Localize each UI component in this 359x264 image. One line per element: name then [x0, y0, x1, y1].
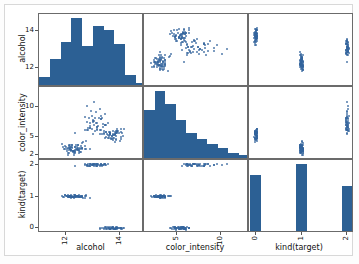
data-point — [226, 163, 228, 165]
y-tick-mark — [35, 227, 38, 228]
x-axis-label-kind-target: kind(target) — [245, 243, 353, 252]
data-point — [103, 133, 105, 135]
data-point — [158, 58, 160, 60]
histogram-bar — [104, 30, 115, 85]
data-point — [209, 40, 211, 42]
data-point — [81, 148, 83, 150]
y-tick-mark — [35, 67, 38, 68]
x-tick-mark — [176, 232, 177, 235]
histogram-bar — [61, 42, 72, 85]
plot-area-alcohol-hist — [39, 14, 142, 85]
data-point — [204, 47, 206, 49]
data-point — [160, 58, 162, 60]
data-point — [105, 131, 107, 133]
data-point — [103, 228, 105, 230]
data-point — [158, 54, 160, 56]
data-point — [100, 164, 102, 166]
x-axis-label-color-intensity: color_intensity — [140, 243, 250, 252]
category-bar — [296, 164, 307, 231]
data-point — [183, 61, 185, 63]
data-point — [186, 54, 188, 56]
data-point — [85, 195, 87, 197]
data-point — [93, 124, 95, 126]
data-point — [163, 66, 165, 68]
histogram-bar — [93, 26, 104, 85]
data-point — [188, 29, 190, 31]
data-point — [301, 67, 303, 69]
data-point — [93, 101, 95, 103]
data-point — [198, 53, 200, 55]
data-point — [89, 122, 91, 124]
x-tick-mark — [301, 232, 302, 235]
data-point — [193, 48, 195, 50]
data-point — [168, 195, 170, 197]
y-tick-mark — [35, 196, 38, 197]
data-point — [114, 141, 116, 143]
data-point — [181, 165, 183, 167]
data-point — [103, 130, 105, 132]
histogram-bar — [114, 44, 125, 85]
data-point — [78, 149, 80, 151]
data-point — [187, 165, 189, 167]
data-point — [302, 142, 304, 144]
data-point — [207, 43, 209, 45]
data-point — [66, 195, 68, 197]
y-tick-mark — [35, 136, 38, 137]
y-tick-mark — [35, 106, 38, 107]
data-point — [347, 105, 349, 107]
data-point — [348, 130, 350, 132]
y-tick-label: 2 — [16, 160, 34, 168]
data-point — [88, 117, 90, 119]
data-point — [99, 108, 101, 110]
data-point — [345, 53, 347, 55]
data-point — [100, 129, 102, 131]
data-point — [62, 196, 64, 198]
panel-target-alcohol — [248, 13, 353, 86]
data-point — [169, 227, 171, 229]
panel-target-target — [248, 159, 353, 232]
data-point — [181, 41, 183, 43]
x-tick-label: 1 — [297, 236, 305, 240]
data-point — [92, 133, 94, 135]
plot-area-alcohol-vs-ci — [39, 87, 142, 158]
data-point — [167, 70, 169, 72]
data-point — [73, 154, 75, 156]
histogram-bar — [207, 144, 218, 158]
data-point — [345, 129, 347, 131]
plot-area-ci-hist — [144, 87, 247, 158]
data-point — [102, 123, 104, 125]
data-point — [175, 35, 177, 37]
y-tick-label: 14 — [16, 26, 34, 34]
data-point — [93, 165, 95, 167]
data-point — [186, 43, 188, 45]
histogram-bar — [50, 59, 61, 85]
histogram-bar — [144, 110, 155, 158]
data-point — [188, 32, 190, 34]
data-point — [71, 146, 73, 148]
y-tick-label: 1 — [16, 192, 34, 200]
data-point — [104, 113, 106, 115]
data-point — [85, 148, 87, 150]
data-point — [302, 152, 304, 154]
data-point — [81, 142, 83, 144]
data-point — [94, 117, 96, 119]
data-point — [346, 61, 348, 63]
data-point — [158, 196, 160, 198]
histogram-bar — [186, 133, 197, 159]
data-point — [66, 148, 68, 150]
panel-alcohol-colorintensity — [38, 86, 143, 159]
data-point — [192, 51, 194, 53]
data-point — [164, 59, 166, 61]
panel-alcohol-alcohol — [38, 13, 143, 86]
data-point — [162, 69, 164, 71]
data-point — [84, 116, 86, 118]
data-point — [192, 45, 194, 47]
data-point — [207, 50, 209, 52]
data-point — [86, 121, 88, 123]
data-point — [67, 154, 69, 156]
data-point — [123, 128, 125, 130]
data-point — [255, 37, 257, 39]
data-point — [302, 154, 304, 156]
data-point — [120, 138, 122, 140]
panel-target-colorintensity — [248, 86, 353, 159]
